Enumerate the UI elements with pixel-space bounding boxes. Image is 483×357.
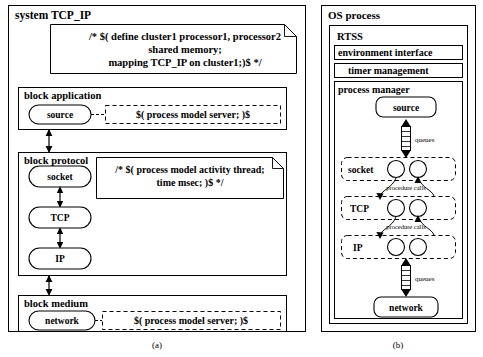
bar-timer-management-label: timer management (348, 65, 429, 76)
queue-top-label: queues (415, 136, 435, 144)
diagram-canvas: system TCP_IP /* $( define cluster1 proc… (0, 0, 483, 357)
caption-b: (b) (393, 340, 404, 350)
node-tcp-a-label: TCP (51, 213, 70, 223)
arrow-protocol-medium (46, 275, 53, 296)
arrow-pm-head-down (46, 289, 53, 296)
layer-socket-label: socket (348, 165, 374, 175)
queue-bottom-label: queues (415, 275, 435, 283)
node-network-b-label: network (389, 303, 423, 313)
arrow-pm-head-up (46, 275, 53, 282)
layer-socket-b: socket (342, 158, 456, 181)
layer-tcp-b: TCP (342, 197, 456, 220)
rtss-title: RTSS (337, 31, 363, 42)
node-source-a-label: source (47, 110, 73, 120)
socket-port-right[interactable] (410, 161, 427, 178)
system-note-line1: /* $( define cluster1 processor1, proces… (88, 31, 281, 43)
layer-ip-b: IP (342, 236, 456, 259)
layer-tcp-label: TCP (350, 204, 369, 214)
block-medium: block medium network $( process model se… (19, 296, 287, 332)
panel-a-title: system TCP_IP (15, 9, 91, 22)
queue-top-arrow-up (401, 119, 411, 127)
node-socket-a-label: socket (47, 172, 73, 182)
protocol-note: /* $( process model activity thread; tim… (97, 158, 284, 199)
queue-top-arrow-down (401, 150, 411, 158)
ip-port-right[interactable] (410, 239, 427, 256)
block-application: block application source $( process mode… (19, 88, 287, 130)
procedure-calls-2-label: procedure calls (386, 223, 426, 230)
panel-b-title: OS process (328, 9, 381, 21)
panel-a: system TCP_IP /* $( define cluster1 proc… (9, 6, 306, 351)
protocol-note-line2: time msec; )$ */ (157, 177, 224, 189)
arrow-socket-tcp (57, 186, 63, 208)
arrow-ap-head-up (46, 129, 53, 136)
node-network-a-label: network (45, 316, 79, 326)
arrow-application-protocol (46, 129, 53, 153)
layer-ip-label: IP (353, 243, 363, 253)
protocol-note-line1: /* $( process model activity thread; (114, 164, 264, 176)
system-note-line2: shared memory; (148, 44, 222, 55)
node-source-b-label: source (393, 103, 419, 113)
block-protocol-title: block protocol (24, 155, 88, 166)
queue-bottom: queues (401, 258, 435, 297)
queue-bottom-arrow-up (401, 258, 411, 266)
block-protocol: block protocol /* $( process model activ… (19, 153, 287, 276)
socket-port-left[interactable] (388, 161, 405, 178)
queue-bottom-arrow-down (401, 289, 411, 297)
arrow-tcp-ip (57, 227, 63, 249)
system-note: /* $( define cluster1 processor1, proces… (51, 25, 297, 74)
procedure-calls-1-label: procedure calls (386, 184, 426, 191)
figure-root: system TCP_IP /* $( define cluster1 proc… (0, 0, 483, 357)
application-annotation-text: $( process model server; )$ (136, 109, 250, 121)
queue-top: queues (401, 119, 435, 158)
block-application-title: block application (24, 90, 101, 101)
arrow-ap-head-down (46, 146, 53, 153)
bar-environment-interface-label: environment interface (338, 47, 433, 58)
ip-port-left[interactable] (388, 239, 405, 256)
tcp-port-right[interactable] (410, 200, 427, 217)
node-ip-a-label: IP (55, 254, 65, 264)
tcp-port-left[interactable] (388, 200, 405, 217)
medium-annotation-text: $( process model server; )$ (134, 315, 248, 327)
process-manager-title: process manager (338, 84, 410, 95)
caption-a: (a) (152, 340, 162, 350)
panel-b: OS process RTSS environment interface ti… (322, 6, 476, 351)
system-note-line3: mapping TCP_IP on cluster1;)$ */ (108, 57, 262, 69)
block-medium-title: block medium (24, 298, 88, 309)
